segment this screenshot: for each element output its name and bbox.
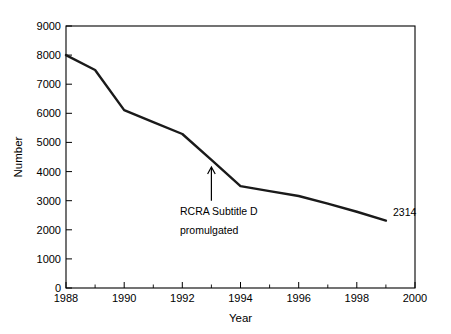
y-tick-label-6000: 6000 — [37, 107, 61, 119]
x-tick-label-2000: 2000 — [403, 292, 427, 304]
x-tick-label-1998: 1998 — [345, 292, 369, 304]
x-tick-label-1988: 1988 — [54, 292, 78, 304]
y-tick-label-5000: 5000 — [37, 136, 61, 148]
annotation-line-1: RCRA Subtitle D — [180, 205, 258, 217]
x-axis-title: Year — [229, 312, 252, 324]
y-axis-tick-labels: 0 1000 2000 3000 4000 5000 6000 7000 800… — [37, 20, 61, 294]
plot-frame — [66, 26, 415, 288]
y-tick-label-4000: 4000 — [37, 166, 61, 178]
end-point-label: 2314 — [393, 206, 417, 218]
y-tick-label-9000: 9000 — [37, 20, 61, 32]
line-chart: 0 1000 2000 3000 4000 5000 6000 7000 800… — [0, 0, 451, 334]
x-tick-label-1992: 1992 — [170, 292, 194, 304]
annotation-line-2: promulgated — [180, 224, 239, 236]
y-axis-title: Number — [12, 136, 24, 177]
y-tick-label-8000: 8000 — [37, 49, 61, 61]
x-tick-label-1994: 1994 — [228, 292, 252, 304]
y-tick-label-7000: 7000 — [37, 78, 61, 90]
annotation-arrow — [208, 167, 216, 201]
y-tick-label-1000: 1000 — [37, 253, 61, 265]
y-tick-label-2000: 2000 — [37, 224, 61, 236]
y-tick-label-3000: 3000 — [37, 195, 61, 207]
data-series-line — [66, 55, 386, 221]
x-tick-label-1990: 1990 — [112, 292, 136, 304]
x-axis-ticks — [66, 282, 415, 288]
chart-canvas: 0 1000 2000 3000 4000 5000 6000 7000 800… — [0, 0, 451, 334]
x-axis-tick-labels: 1988 1990 1992 1994 1996 1998 2000 — [54, 292, 427, 304]
y-axis-ticks — [66, 26, 72, 288]
x-tick-label-1996: 1996 — [286, 292, 310, 304]
